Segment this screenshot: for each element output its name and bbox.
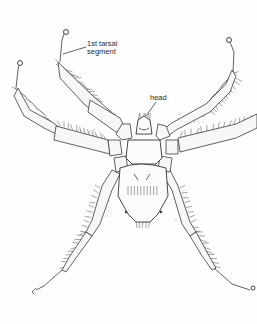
seta [142,222,143,228]
annotations: 1st tarsal segment head [63,39,167,116]
diagram-canvas: 1st tarsal segment head [0,0,257,324]
seta [84,220,90,222]
stipple [84,130,85,131]
stipple [115,113,116,114]
stipple [89,131,90,132]
claw-icon [64,30,69,35]
stipple [198,120,199,121]
stipple [203,122,204,123]
seta [91,195,97,197]
leg-hind-left [32,170,120,294]
stipple [78,130,79,131]
stipple [198,122,199,123]
stipple [110,213,111,214]
seta [185,130,186,137]
stipple [93,132,94,133]
stipple [181,112,182,113]
stipple [175,219,176,220]
stipple [176,220,177,221]
stipple [184,197,185,198]
stipple [199,123,200,124]
claw-icon [251,286,255,290]
seta [186,206,192,207]
leader-line-tarsal [63,47,86,54]
seta [33,105,38,109]
seta [80,127,81,133]
stipple [183,195,184,196]
seta [191,220,196,223]
stipple [198,132,199,133]
seta [180,185,185,188]
seta [85,216,91,217]
seta [95,185,100,188]
seta [74,78,81,79]
seta [70,124,72,130]
seta [185,201,191,203]
stipple [94,129,95,130]
stipple [108,207,109,208]
seta [31,102,36,107]
claw-icon [18,61,23,66]
hysterosoma [118,164,168,222]
label-tarsal-line2: segment [87,47,117,56]
seta [39,110,44,115]
seta [93,190,98,193]
propodosoma [126,140,162,164]
stipple [107,215,108,216]
specimen-illustration: 1st tarsal segment head [0,0,257,324]
stipple [179,115,180,116]
seta [146,222,147,228]
stipple [189,123,190,124]
stipple [95,134,96,135]
stipple [106,209,107,210]
stipple [204,119,205,120]
body [118,140,168,222]
leader-line-head [146,102,156,116]
stipple [89,133,90,134]
seta [234,81,240,85]
seta [77,235,84,236]
seta [189,215,195,217]
seta [80,231,86,232]
seta [42,112,47,117]
claw-icon [227,38,232,43]
leg-hind-right [162,170,255,290]
seta [148,222,150,228]
stipple [99,131,100,132]
stipple [195,120,196,121]
stipple [115,113,116,114]
seta [87,129,89,135]
label-head: head [150,93,167,102]
stipple [194,122,195,123]
stipple [109,201,110,202]
leg-front-right [162,38,236,137]
stipple [112,109,113,110]
stipple [87,133,88,134]
stipple [95,135,96,136]
seta [57,121,60,126]
seta [188,212,194,213]
seta [136,222,137,228]
stipple [106,216,107,217]
stipple [179,113,180,114]
seta [88,205,93,208]
seta [236,78,242,82]
stipple [108,211,109,212]
stipple [81,130,82,131]
stipple [179,114,180,115]
stipple [93,130,94,131]
seta [82,225,88,227]
seta [87,211,93,213]
